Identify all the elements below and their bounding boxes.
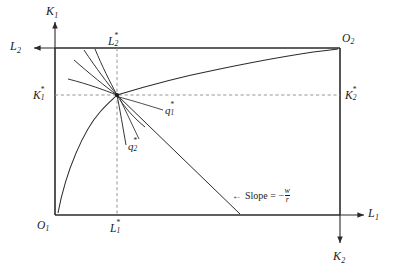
value-label-k2-star: K2* bbox=[345, 87, 358, 101]
isoquant-fan bbox=[68, 49, 145, 145]
q1-isoquant-curve bbox=[58, 95, 117, 213]
slope-denominator: r bbox=[285, 195, 290, 204]
slope-arrow-icon: ← bbox=[232, 190, 242, 201]
axis-label-k1: K1 bbox=[46, 5, 58, 19]
tangency-point-dot bbox=[115, 93, 119, 97]
curve-label-q2-star: q2* bbox=[128, 139, 138, 152]
axis-label-l2: L2 bbox=[10, 40, 21, 54]
edgeworth-box-svg bbox=[0, 0, 394, 273]
axis-label-l1: L1 bbox=[368, 207, 379, 221]
slope-text: Slope = − bbox=[245, 190, 284, 201]
axis-label-k2: K2 bbox=[333, 250, 345, 264]
q2-isoquant-curve bbox=[117, 49, 338, 95]
isocost-line bbox=[117, 95, 240, 214]
value-label-k1-star: K1* bbox=[33, 87, 46, 101]
origin-label-o1: O1 bbox=[37, 220, 49, 233]
slope-fraction: w r bbox=[285, 187, 290, 204]
box-frame bbox=[55, 48, 340, 215]
slope-annotation: ← Slope = − w r bbox=[232, 187, 290, 204]
origin-label-o2: O2 bbox=[342, 33, 354, 46]
slope-numerator: w bbox=[285, 187, 290, 195]
diagram-canvas: K1 L2 L1 K2 O1 O2 K1* K2* L1* L2* q1* q2… bbox=[0, 0, 394, 273]
value-label-l2-star: L2* bbox=[108, 33, 120, 47]
value-label-l1-star: L1* bbox=[110, 220, 122, 234]
curve-label-q1-star: q1* bbox=[165, 103, 175, 116]
